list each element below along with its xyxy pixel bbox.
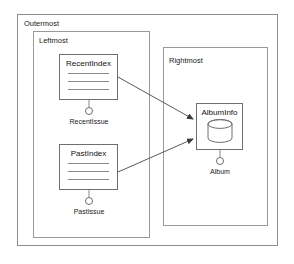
interface-recentissue-label: RecentIssue bbox=[70, 117, 109, 126]
interface-stem bbox=[89, 190, 90, 197]
interface-ball-icon bbox=[85, 107, 93, 115]
component-albuminfo-label: AlbumInfo bbox=[197, 108, 242, 118]
detail-rule bbox=[68, 73, 109, 74]
package-outermost-label: Outermost bbox=[24, 19, 59, 28]
component-recentindex[interactable]: RecentIndex bbox=[59, 54, 118, 100]
component-pastindex[interactable]: PastIndex bbox=[59, 144, 118, 190]
interface-ball-icon bbox=[216, 157, 224, 165]
detail-rule bbox=[68, 89, 109, 90]
interface-ball-icon bbox=[85, 197, 93, 205]
detail-rule bbox=[68, 171, 109, 172]
component-recentindex-label: RecentIndex bbox=[60, 59, 117, 69]
component-pastindex-label: PastIndex bbox=[60, 149, 117, 159]
component-pastindex-detail-rules bbox=[68, 163, 109, 187]
database-cylinder-icon bbox=[207, 119, 233, 143]
interface-pastissue-label: PastIssue bbox=[74, 207, 105, 216]
package-leftmost-label: Leftmost bbox=[39, 36, 68, 45]
package-rightmost-label: Rightmost bbox=[169, 56, 203, 65]
detail-rule bbox=[68, 163, 109, 164]
component-diagram-canvas: Outermost Leftmost Rightmost RecentIndex… bbox=[0, 0, 294, 264]
interface-stem bbox=[220, 150, 221, 157]
detail-rule bbox=[68, 81, 109, 82]
detail-rule bbox=[68, 179, 109, 180]
component-recentindex-detail-rules bbox=[68, 73, 109, 97]
interface-stem bbox=[89, 100, 90, 107]
interface-album-label: Album bbox=[210, 167, 230, 176]
